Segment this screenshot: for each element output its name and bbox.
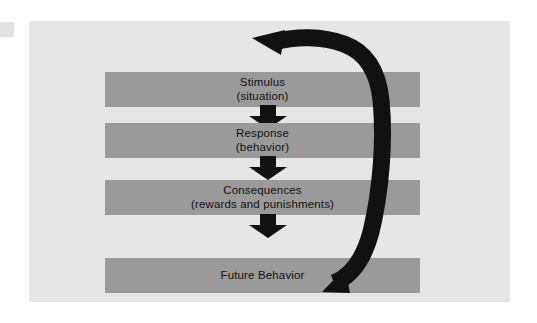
flow-step-stimulus-sublabel: (situation)	[236, 90, 288, 103]
down-arrow-icon-response-to-consequences	[249, 156, 287, 180]
flow-step-response-label: Response	[236, 127, 289, 140]
left-edge-marker	[0, 22, 14, 37]
flow-step-stimulus-label: Stimulus	[240, 76, 285, 89]
flow-step-future-behavior: Future Behavior	[105, 258, 420, 293]
flow-step-future-behavior-label: Future Behavior	[220, 269, 304, 282]
flow-step-consequences-sublabel: (rewards and punishments)	[191, 198, 334, 211]
diagram-figure: Stimulus (situation) Response (behavior)…	[0, 0, 537, 323]
flow-step-response: Response (behavior)	[105, 123, 420, 158]
down-arrow-icon-consequences-to-future	[249, 214, 287, 238]
flow-step-stimulus: Stimulus (situation)	[105, 72, 420, 107]
flow-step-consequences-label: Consequences	[223, 184, 302, 197]
flow-step-consequences: Consequences (rewards and punishments)	[105, 180, 420, 215]
flow-step-response-sublabel: (behavior)	[236, 141, 289, 154]
